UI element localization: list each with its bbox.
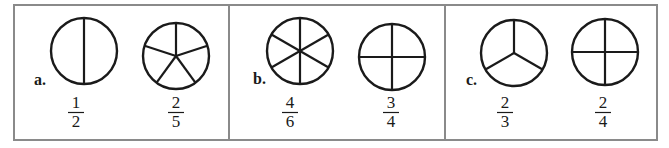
panel-label: c. (466, 71, 477, 88)
fraction-numerator: 2 (501, 93, 510, 112)
division-line (485, 53, 514, 70)
fraction-denominator: 5 (172, 112, 181, 131)
fraction-circle-fifths: 25 (143, 23, 209, 131)
fraction-circle-thirds: 23 (481, 20, 547, 131)
fraction-label: 24 (595, 93, 611, 131)
diagram-canvas: a.1225b.4634c.2324 (0, 0, 669, 148)
fraction-label: 46 (282, 93, 298, 131)
division-line (176, 46, 207, 56)
division-line (145, 46, 176, 56)
fraction-denominator: 3 (501, 112, 510, 131)
panel-a: a.1225 (34, 18, 209, 131)
panels: a.1225b.4634c.2324 (34, 18, 638, 131)
fraction-label: 34 (383, 93, 399, 131)
fraction-numerator: 2 (172, 93, 181, 112)
fraction-circles-diagram: a.1225b.4634c.2324 (0, 0, 669, 148)
fraction-numerator: 2 (599, 93, 608, 112)
fraction-label: 12 (68, 93, 84, 131)
fraction-denominator: 4 (599, 112, 608, 131)
fraction-numerator: 4 (286, 93, 295, 112)
fraction-circle-sixths: 46 (267, 18, 333, 131)
fraction-numerator: 1 (72, 93, 81, 112)
panel-c: c.2324 (466, 19, 638, 131)
fraction-denominator: 4 (387, 112, 396, 131)
division-line (157, 56, 176, 83)
fraction-denominator: 6 (286, 112, 295, 131)
fraction-denominator: 2 (72, 112, 81, 131)
fraction-circle-halves: 12 (51, 18, 117, 131)
division-line (514, 53, 543, 70)
fraction-circle-quarters: 34 (359, 24, 425, 131)
panel-label: b. (253, 70, 266, 87)
fraction-label: 23 (497, 93, 513, 131)
division-line (176, 56, 195, 83)
panel-label: a. (34, 71, 46, 88)
panel-b: b.4634 (253, 18, 425, 131)
fraction-numerator: 3 (387, 93, 396, 112)
fraction-label: 25 (168, 93, 184, 131)
fraction-circle-quarters: 24 (572, 19, 638, 131)
